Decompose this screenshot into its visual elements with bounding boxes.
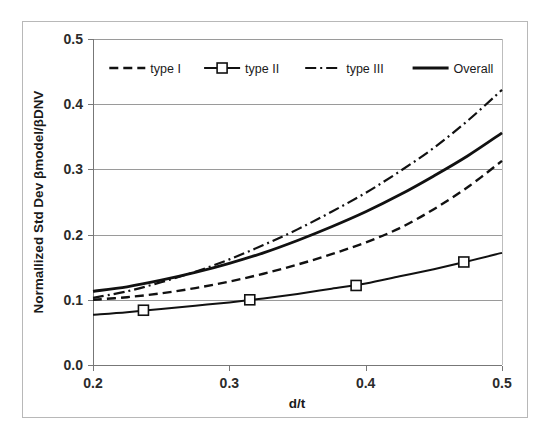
- legend-item-overall[interactable]: Overall: [413, 62, 494, 76]
- legend: type Itype IItype IIIOverall: [109, 62, 493, 76]
- data-marker-square: [138, 305, 148, 315]
- x-tick-label-0.4: 0.4: [356, 375, 376, 391]
- legend-label: type III: [346, 62, 384, 76]
- legend-item-type-ii[interactable]: type II: [204, 62, 279, 76]
- legend-label: type I: [150, 62, 181, 76]
- figure-root: 0.00.10.20.30.40.5 0.20.30.40.5 type Ity…: [0, 0, 543, 436]
- gridlines-group: [93, 40, 502, 366]
- y-tick-label-0.2: 0.2: [64, 227, 84, 243]
- legend-item-type-i[interactable]: type I: [109, 62, 181, 76]
- legend-label: Overall: [454, 62, 494, 76]
- data-marker-square: [245, 295, 255, 305]
- y-tick-label-0.5: 0.5: [64, 31, 84, 47]
- x-axis-title: d/t: [289, 396, 306, 411]
- y-tick-labels-group: 0.00.10.20.30.40.5: [64, 31, 84, 373]
- y-tick-label-0.0: 0.0: [64, 357, 84, 373]
- data-marker-square: [459, 257, 469, 267]
- y-axis-title: Normallized Std Dev βmodel/βDNV: [31, 91, 46, 314]
- legend-marker-square: [217, 63, 227, 73]
- line-chart: 0.00.10.20.30.40.5 0.20.30.40.5 type Ity…: [0, 0, 543, 436]
- legend-label: type II: [245, 62, 279, 76]
- x-tick-labels-group: 0.20.30.40.5: [83, 375, 512, 391]
- axis-group: [88, 39, 503, 371]
- data-marker-square: [351, 280, 361, 290]
- x-tick-label-0.3: 0.3: [220, 375, 240, 391]
- data-series-group: [93, 90, 502, 315]
- x-tick-label-0.2: 0.2: [83, 375, 103, 391]
- y-tick-label-0.4: 0.4: [64, 96, 84, 112]
- x-tick-label-0.5: 0.5: [492, 375, 512, 391]
- y-tick-label-0.3: 0.3: [64, 161, 84, 177]
- y-tick-label-0.1: 0.1: [64, 292, 84, 308]
- legend-item-type-iii[interactable]: type III: [305, 62, 384, 76]
